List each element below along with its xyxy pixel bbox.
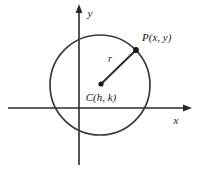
point-p-dot — [133, 47, 139, 53]
diagram-canvas: y x r C(h, k) P(x, y) — [0, 0, 200, 173]
center-point-dot — [98, 81, 103, 86]
circle-diagram-figure: y x r C(h, k) P(x, y) — [0, 0, 200, 173]
y-axis-arrowhead-icon — [76, 4, 83, 13]
radius-segment — [101, 50, 136, 84]
x-axis — [8, 105, 192, 112]
x-axis-arrowhead-icon — [183, 105, 192, 112]
point-p-label: P(x, y) — [141, 31, 172, 44]
x-axis-label: x — [173, 114, 179, 126]
y-axis — [76, 4, 83, 165]
y-axis-label: y — [87, 7, 93, 19]
center-label: C(h, k) — [86, 91, 117, 104]
radius-label: r — [108, 53, 112, 64]
